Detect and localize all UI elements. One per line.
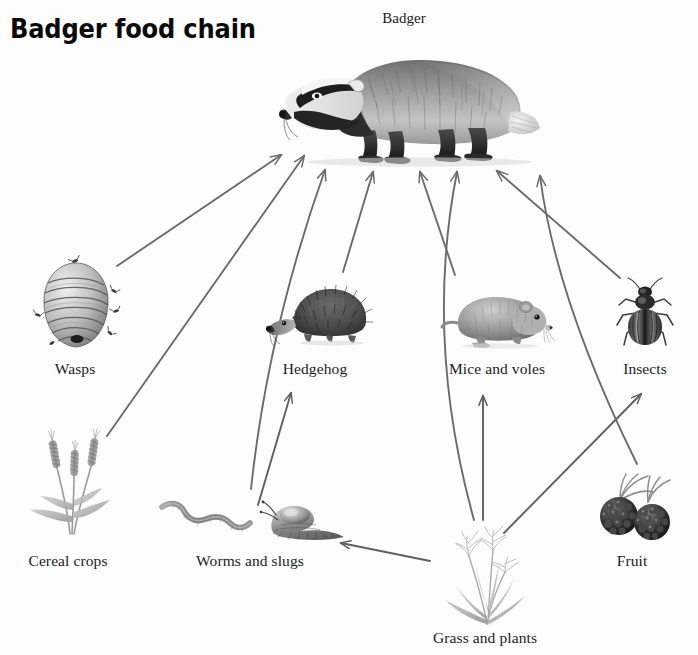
grass-illustration xyxy=(437,528,537,628)
node-label-wasps: Wasps xyxy=(55,360,96,378)
food-chain-diagram: Badger food chain Badger xyxy=(0,0,698,655)
arrow-wasps-to-badger xyxy=(117,155,281,266)
page-title: Badger food chain xyxy=(10,14,256,44)
node-label-insects: Insects xyxy=(623,360,667,378)
arrow-grass-to-worms xyxy=(341,543,430,561)
wheat-illustration xyxy=(28,438,120,538)
node-label-mice: Mice and voles xyxy=(449,360,545,378)
worm-and-slug-illustration xyxy=(160,495,345,547)
node-label-worms: Worms and slugs xyxy=(196,552,304,570)
beetle-illustration xyxy=(612,275,678,353)
badger-illustration xyxy=(270,40,540,165)
node-label-grass: Grass and plants xyxy=(433,629,537,647)
arrow-hedgehog-to-badger xyxy=(343,172,373,272)
node-label-fruit: Fruit xyxy=(617,552,648,570)
vole-illustration xyxy=(440,285,555,353)
node-label-cereal: Cereal crops xyxy=(28,552,107,570)
wasp-nest-illustration xyxy=(30,255,126,355)
node-label-hedgehog: Hedgehog xyxy=(283,360,348,378)
hedgehog-illustration xyxy=(262,278,374,350)
arrow-worms-to-hedgehog xyxy=(258,393,291,505)
badger-caption: Badger xyxy=(382,10,425,27)
blackberries-illustration xyxy=(590,472,682,550)
